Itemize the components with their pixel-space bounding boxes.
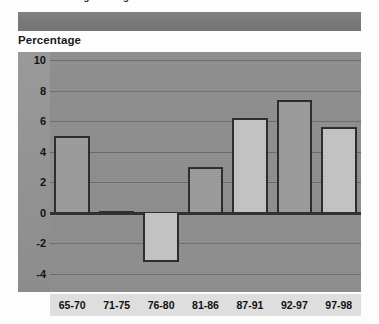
- y-axis-tick-label: 2: [40, 176, 46, 188]
- y-axis-tick-label: 8: [40, 85, 46, 97]
- x-axis-tick-label: 76-80: [148, 299, 175, 311]
- bar: [188, 167, 224, 213]
- y-axis-tick-label: 4: [40, 146, 46, 158]
- gridline: [50, 60, 361, 61]
- bar: [143, 213, 179, 262]
- chart-frame: 1086420-2-4: [18, 52, 361, 292]
- x-axis-tick-label: 65-70: [59, 299, 86, 311]
- gridline: [50, 152, 361, 153]
- gridline: [50, 121, 361, 122]
- x-axis-tick-label: 97-98: [325, 299, 352, 311]
- bar: [277, 100, 313, 213]
- section-banner: [18, 12, 361, 31]
- y-axis-tick-label: 10: [34, 54, 46, 66]
- bar: [232, 118, 268, 213]
- x-axis-tick-label: 81-86: [192, 299, 219, 311]
- x-axis-label-strip: 65-7071-7576-8081-8687-9192-9797-98: [50, 294, 361, 316]
- clipped-heading-region: Annual Percentage Change: [0, 0, 379, 9]
- gridline: [50, 91, 361, 92]
- y-axis-title: Percentage: [18, 34, 81, 46]
- gridline: [50, 243, 361, 244]
- x-axis-tick-label: 87-91: [236, 299, 263, 311]
- bar: [54, 136, 90, 212]
- gridline: [50, 274, 361, 275]
- y-axis-tick-label: 6: [40, 115, 46, 127]
- y-axis-tick-label: 0: [40, 207, 46, 219]
- bar: [321, 127, 357, 213]
- y-axis-gutter: 1086420-2-4: [18, 52, 50, 292]
- x-axis-tick-label: 92-97: [281, 299, 308, 311]
- chart-page: Annual Percentage Change Percentage 1086…: [0, 0, 379, 324]
- zero-baseline: [50, 212, 361, 215]
- y-axis-tick-label: -2: [36, 237, 46, 249]
- plot-area: [50, 52, 361, 292]
- y-axis-tick-label: -4: [36, 268, 46, 280]
- x-axis-tick-label: 71-75: [103, 299, 130, 311]
- clipped-heading-text: Annual Percentage Change: [4, 0, 135, 2]
